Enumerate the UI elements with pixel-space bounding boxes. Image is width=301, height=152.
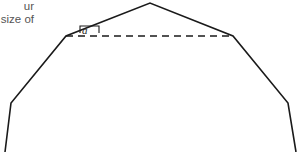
figure-container: ur size of a: [0, 0, 301, 152]
angle-label-a: a: [81, 25, 89, 36]
caption-line-2: size of: [0, 13, 34, 26]
caption-text-block: ur size of: [0, 0, 46, 25]
caption-line-1: ur: [0, 0, 34, 13]
